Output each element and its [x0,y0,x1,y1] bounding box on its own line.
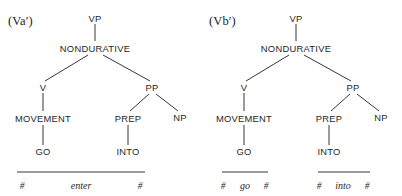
word-enter: enter [71,180,92,191]
syntax-tree-figure-vb: (Vb′)VPNONDURATIVEVPPMOVEMENTPREPNPGOINT… [201,0,402,196]
tree-node-v: V [40,82,47,93]
tree-node-movement: MOVEMENT [15,113,71,124]
tree-branch-layer [201,0,402,196]
tree-node-go: GO [236,146,251,157]
boundary-right: # [138,181,143,191]
boundary-go-right: # [264,181,269,191]
tree-node-nondurative: NONDURATIVE [261,43,331,54]
tree-node-v: V [241,82,248,93]
boundary-go-left: # [221,181,226,191]
tree-node-movement: MOVEMENT [216,113,272,124]
tree-node-prep: PREP [115,113,142,124]
tree-node-prep: PREP [316,113,343,124]
tree-edge-pp-to-np [156,94,178,111]
boundary-into-right: # [365,181,370,191]
word-into: into [335,180,351,191]
tree-edge-nondurative-to-v [45,55,88,81]
tree-edge-pp-to-prep [130,94,149,111]
tree-edge-nondurative-to-pp [304,55,351,81]
word-go: go [240,180,250,191]
tree-branch-layer [0,0,201,196]
tree-node-np: NP [374,112,388,123]
tree-node-go: GO [35,146,50,157]
boundary-left: # [20,181,25,191]
tree-node-into: INTO [116,146,139,157]
tree-edge-pp-to-prep [331,94,350,111]
tree-edge-nondurative-to-v [246,55,289,81]
tree-node-nondurative: NONDURATIVE [60,43,130,54]
tree-node-vp: VP [289,13,302,24]
tree-edge-pp-to-np [357,94,379,111]
tree-node-vp: VP [88,13,101,24]
tree-edge-nondurative-to-pp [103,55,150,81]
tree-node-into: INTO [317,146,340,157]
tree-node-np: NP [173,112,187,123]
tree-node-pp: PP [145,82,158,93]
syntax-tree-figure-va: (Va′)VPNONDURATIVEVPPMOVEMENTPREPNPGOINT… [0,0,201,196]
boundary-into-left: # [317,181,322,191]
tree-node-pp: PP [346,82,359,93]
